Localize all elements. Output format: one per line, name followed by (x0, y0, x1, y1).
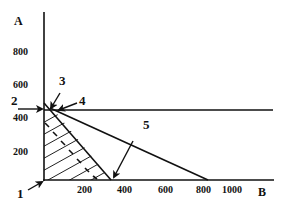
callout-arrow-4 (59, 103, 77, 110)
callout-arrow-3 (51, 93, 60, 108)
y-tick-200: 200 (13, 147, 28, 157)
y-tick-400: 400 (13, 113, 28, 123)
x-tick-200: 200 (77, 185, 92, 195)
callout-arrow-1 (28, 182, 42, 190)
x-tick-800: 800 (196, 185, 211, 195)
callout-label-5: 5 (143, 118, 150, 131)
linear-programming-diagram (0, 0, 284, 206)
callout-label-3: 3 (59, 74, 66, 87)
y-tick-800: 800 (13, 47, 28, 57)
x-tick-600: 600 (158, 185, 173, 195)
x-tick-1000: 1000 (222, 185, 242, 195)
callout-label-4: 4 (79, 94, 86, 107)
callout-label-1: 1 (17, 187, 24, 200)
x-axis-label: B (258, 186, 266, 198)
shallow-constraint-line (50, 108, 208, 180)
y-axis-label: A (14, 15, 23, 27)
x-tick-400: 400 (117, 185, 132, 195)
callout-label-2: 2 (11, 94, 18, 107)
callout-arrow-5 (114, 141, 133, 177)
steep-constraint-line (44, 103, 111, 180)
y-tick-600: 600 (13, 80, 28, 90)
